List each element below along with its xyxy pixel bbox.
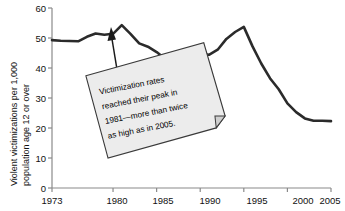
annotation-callout-box: Victimization rates reached their peak i… — [84, 41, 229, 159]
x-axis-ticks — [52, 188, 331, 192]
